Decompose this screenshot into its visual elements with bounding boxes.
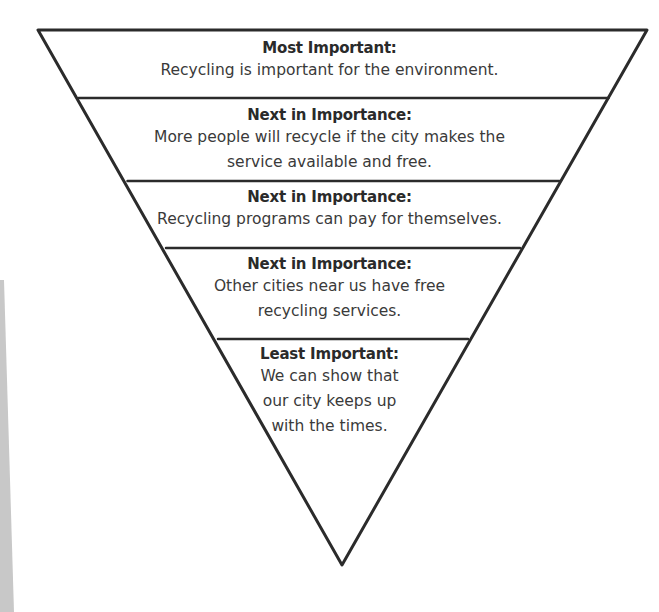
tier-heading: Next in Importance: [0,187,659,207]
tier-body: More people will recycle if the city mak… [0,125,659,175]
tier-next-1: Next in Importance: More people will rec… [0,105,659,175]
tier-heading: Least Important: [0,344,659,364]
tier-body: We can show that our city keeps up with … [0,364,659,439]
tier-body: Recycling is important for the environme… [0,58,659,83]
tier-next-3: Next in Importance: Other cities near us… [0,254,659,324]
tier-next-2: Next in Importance: Recycling programs c… [0,187,659,232]
tier-heading: Next in Importance: [0,254,659,274]
tier-heading: Next in Importance: [0,105,659,125]
tier-heading: Most Important: [0,38,659,58]
tier-most-important: Most Important: Recycling is important f… [0,38,659,83]
tier-body: Other cities near us have free recycling… [0,274,659,324]
tier-least-important: Least Important: We can show that our ci… [0,344,659,439]
tier-body: Recycling programs can pay for themselve… [0,207,659,232]
